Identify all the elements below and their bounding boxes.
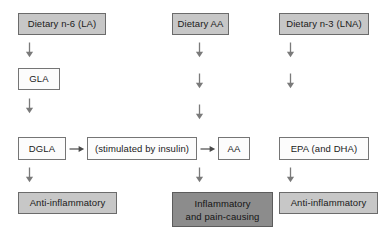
arrow-down-n6-1 [24, 42, 35, 58]
node-inflammatory-and-pain-causing: Inflammatory and pain-causing [172, 192, 273, 227]
arrow-right-dgla-insulin [69, 144, 85, 154]
arrow-right-insulin-aa [200, 144, 216, 154]
node-anti-inflammatory-left: Anti-inflammatory [18, 192, 117, 214]
arrow-down-aa-4 [194, 167, 205, 183]
node-dietary-n3: Dietary n-3 (LNA) [279, 13, 369, 35]
node-dgla: DGLA [18, 137, 66, 160]
pathway-diagram: Dietary n-6 (LA) Dietary AA Dietary n-3 … [0, 0, 388, 244]
node-gla: GLA [18, 68, 60, 90]
node-stimulated-by-insulin: (stimulated by insulin) [87, 137, 197, 160]
arrow-down-n3-3 [285, 167, 296, 183]
node-aa: AA [218, 137, 250, 160]
arrow-down-aa-1 [194, 42, 205, 58]
node-dietary-aa: Dietary AA [172, 13, 229, 35]
arrow-down-n3-2 [285, 73, 296, 89]
arrow-down-n3-1 [285, 42, 296, 58]
node-epa: EPA (and DHA) [279, 137, 369, 160]
arrow-down-n6-2 [24, 98, 35, 114]
node-anti-inflammatory-right: Anti-inflammatory [279, 192, 378, 214]
arrow-down-n6-3 [24, 167, 35, 183]
arrow-down-aa-3 [194, 104, 205, 120]
arrow-down-aa-2 [194, 73, 205, 89]
node-dietary-n6: Dietary n-6 (LA) [18, 13, 106, 35]
